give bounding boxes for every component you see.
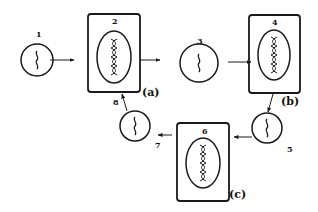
node-5-label: 5	[287, 145, 293, 153]
node-4-label: 4	[272, 18, 278, 26]
tag-b: (b)	[281, 96, 299, 107]
node-7-label: 7	[155, 141, 161, 149]
node-8-circle	[120, 111, 150, 141]
tag-c: (c)	[229, 189, 246, 200]
node-3-circle	[180, 44, 218, 82]
lifecycle-diagram	[0, 0, 318, 212]
node-1-circle	[21, 44, 53, 76]
node-5-circle	[252, 113, 282, 143]
node-3-label: 3	[197, 37, 203, 45]
node-2-label: 2	[112, 17, 118, 25]
node-8-label: 8	[113, 98, 119, 106]
tag-a: (a)	[142, 87, 160, 98]
arrow-8-to-2	[122, 94, 127, 111]
arrow-4-to-5	[268, 94, 273, 112]
node-6-label: 6	[202, 127, 208, 135]
node-1-label: 1	[36, 30, 42, 38]
